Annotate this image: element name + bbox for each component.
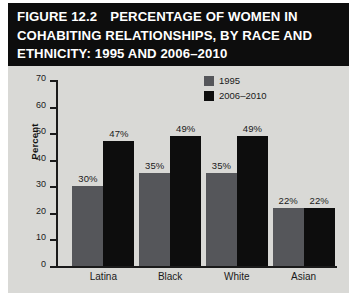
x-axis-category-label: Asian <box>291 271 316 282</box>
y-tick-mark <box>50 186 56 188</box>
bar-value-label: 35% <box>212 160 231 171</box>
y-tick-label: 20 <box>36 206 46 216</box>
bar-group: 35%49%Black <box>139 80 201 266</box>
y-tick-label: 60 <box>36 100 46 110</box>
bar[interactable]: 47% <box>103 141 134 266</box>
bar-group: 30%47%Latina <box>72 80 134 266</box>
y-tick-70: 70 <box>50 80 56 82</box>
bar[interactable]: 22% <box>273 208 304 266</box>
bar[interactable]: 30% <box>72 186 103 266</box>
y-tick-label: 0 <box>41 259 46 269</box>
bar-value-label: 30% <box>78 173 97 184</box>
y-tick-mark <box>50 160 56 162</box>
y-tick-60: 60 <box>50 107 56 109</box>
y-tick-mark <box>50 239 56 241</box>
figure-container: FIGURE 12.2PERCENTAGE OF WOMEN IN COHABI… <box>0 0 355 305</box>
y-tick-label: 70 <box>36 73 46 83</box>
y-tick-mark <box>50 107 56 109</box>
bar-value-label: 49% <box>243 123 262 134</box>
y-tick-mark <box>50 133 56 135</box>
x-axis-category-label: Black <box>158 271 182 282</box>
x-axis-line <box>56 266 337 268</box>
bar-value-label: 49% <box>176 123 195 134</box>
y-tick-mark <box>50 213 56 215</box>
bar[interactable]: 22% <box>304 208 335 266</box>
figure-number: FIGURE 12.2 <box>17 9 97 24</box>
y-tick-30: 30 <box>50 186 56 188</box>
y-tick-mark <box>50 80 56 82</box>
bar-value-label: 22% <box>310 195 329 206</box>
title-text-1: PERCENTAGE OF WOMEN IN <box>110 9 297 24</box>
y-tick-0: 0 <box>50 266 56 268</box>
title-line-3: ETHNICITY: 1995 AND 2006–2010 <box>17 45 343 64</box>
x-axis-category-label: White <box>224 271 250 282</box>
y-tick-50: 50 <box>50 133 56 135</box>
bar[interactable]: 35% <box>139 173 170 266</box>
bar-value-label: 47% <box>109 128 128 139</box>
bar-value-label: 22% <box>279 195 298 206</box>
y-tick-40: 40 <box>50 160 56 162</box>
bar[interactable]: 35% <box>206 173 237 266</box>
title-line-2: COHABITING RELATIONSHIPS, BY RACE AND <box>17 27 343 46</box>
x-axis-category-label: Latina <box>90 271 117 282</box>
bar-value-label: 35% <box>145 160 164 171</box>
y-tick-label: 50 <box>36 126 46 136</box>
bar[interactable]: 49% <box>237 136 268 266</box>
y-tick-label: 40 <box>36 153 46 163</box>
title-line-1: FIGURE 12.2PERCENTAGE OF WOMEN IN <box>17 8 343 27</box>
title-text-3: ETHNICITY: 1995 AND 2006–2010 <box>17 46 227 61</box>
y-tick-mark <box>50 266 56 268</box>
y-axis-line <box>56 80 58 268</box>
bar[interactable]: 49% <box>170 136 201 266</box>
bar-group: 35%49%White <box>206 80 268 266</box>
y-tick-label: 30 <box>36 179 46 189</box>
figure-title-banner: FIGURE 12.2PERCENTAGE OF WOMEN IN COHABI… <box>8 3 349 66</box>
plot-area: 010203040506070 30%47%Latina35%49%Black3… <box>56 80 337 268</box>
y-tick-20: 20 <box>50 213 56 215</box>
chart-panel: Percent 1995 2006–2010 010203040506070 3… <box>8 66 349 293</box>
y-tick-label: 10 <box>36 232 46 242</box>
bar-group: 22%22%Asian <box>273 80 335 266</box>
title-text-2: COHABITING RELATIONSHIPS, BY RACE AND <box>17 28 312 43</box>
y-tick-10: 10 <box>50 239 56 241</box>
